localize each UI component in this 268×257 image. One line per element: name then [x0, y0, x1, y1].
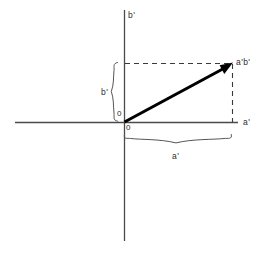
y-axis-label: b': [128, 11, 135, 20]
vector-arrow-shaft: [125, 68, 226, 123]
horizontal-brace-label: a': [172, 152, 179, 161]
x-axis-label: a': [243, 118, 250, 127]
origin-label-lower-right: 0: [126, 124, 131, 132]
vertical-brace-label: b': [101, 88, 108, 97]
horizontal-brace: [124, 135, 231, 143]
vector-arrow-head: [220, 63, 233, 74]
origin-label-upper-left: 0: [117, 110, 122, 118]
vector-tip-label: a'b': [236, 58, 250, 67]
figure-root: b' a' a'b' 0 0 b' a': [0, 0, 268, 257]
figure-canvas: [0, 0, 268, 257]
